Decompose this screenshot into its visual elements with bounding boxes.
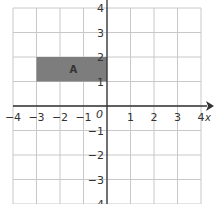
x-tick-label: −4 bbox=[5, 111, 21, 124]
x-tick-label: 2 bbox=[151, 111, 158, 124]
x-tick-label: −2 bbox=[52, 111, 68, 124]
y-tick-label: −4 bbox=[88, 198, 104, 204]
y-tick-label: 3 bbox=[97, 27, 104, 40]
x-tick-labels: −4−3−2−11234 bbox=[5, 111, 205, 124]
origin-label: 0 bbox=[96, 108, 103, 121]
x-tick-label: 4 bbox=[198, 111, 205, 124]
x-tick-label: −3 bbox=[28, 111, 44, 124]
x-axis-label: x bbox=[204, 112, 211, 123]
y-tick-label: 2 bbox=[97, 51, 104, 64]
x-tick-label: 1 bbox=[127, 111, 134, 124]
y-tick-label: −3 bbox=[88, 174, 104, 187]
y-tick-label: −1 bbox=[88, 125, 104, 138]
x-tick-label: 3 bbox=[174, 111, 181, 124]
x-axis-arrow-icon bbox=[206, 101, 214, 111]
x-tick-label: −1 bbox=[75, 111, 91, 124]
y-tick-label: 4 bbox=[97, 2, 104, 15]
shape-a-label: A bbox=[69, 64, 77, 75]
y-tick-label: −2 bbox=[88, 149, 104, 162]
y-tick-label: 1 bbox=[97, 76, 104, 89]
coordinate-grid: A −4−3−2−11234 4321−1−2−3−4 0 x bbox=[0, 0, 215, 204]
